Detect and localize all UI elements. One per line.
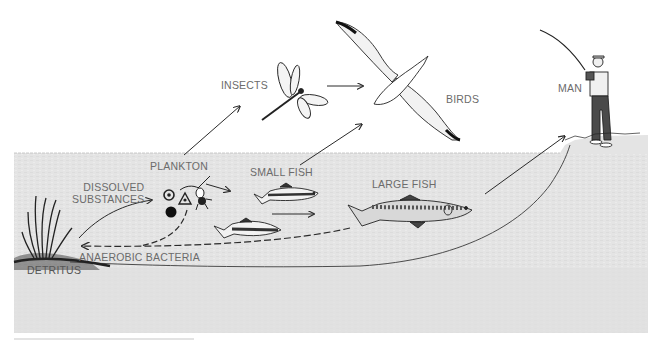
label-plankton: PLANKTON: [150, 160, 208, 172]
water-body: [14, 135, 648, 333]
label-large-fish: LARGE FISH: [372, 178, 436, 190]
label-detritus: DETRITUS: [27, 264, 81, 276]
label-small-fish: SMALL FISH: [250, 166, 313, 178]
dragonfly-icon: [262, 61, 329, 120]
fisherman-icon: [540, 30, 640, 147]
caption-strip: [14, 338, 194, 340]
label-man: MAN: [558, 82, 582, 94]
label-birds: BIRDS: [446, 93, 479, 105]
diagram-canvas: [0, 0, 657, 347]
food-chain-diagram: INSECTS BIRDS MAN PLANKTON SMALL FISH LA…: [0, 0, 657, 347]
label-dissolved-substances: DISSOLVED SUBSTANCES: [72, 181, 144, 205]
label-insects: INSECTS: [221, 79, 268, 91]
label-anaerobic-bacteria: ANAEROBIC BACTERIA: [79, 251, 200, 263]
arrow-plankton-to-insects: [184, 106, 240, 155]
albatross-icon: [336, 22, 460, 140]
